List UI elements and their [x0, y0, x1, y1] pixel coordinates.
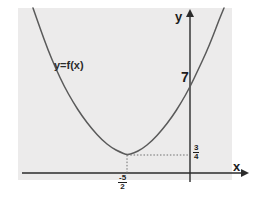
function-label: y=f(x) [54, 60, 84, 71]
vertex-x-numerator: -5 [118, 174, 127, 182]
vertex-y-denominator: 4 [193, 152, 199, 161]
vertex-x-value-label: -5 2 [118, 174, 127, 192]
graph-canvas [0, 0, 263, 204]
vertex-y-numerator: 3 [193, 144, 199, 152]
x-axis-label: x [233, 160, 240, 173]
vertex-x-denominator: 2 [118, 182, 127, 191]
vertex-y-value-label: 3 4 [193, 144, 199, 162]
parabola-figure: y x y=f(x) 7 3 4 -5 2 [0, 0, 263, 204]
parabola-curve [33, 8, 224, 154]
y-axis-label: y [175, 10, 182, 23]
y-intercept-label: 7 [181, 70, 189, 84]
